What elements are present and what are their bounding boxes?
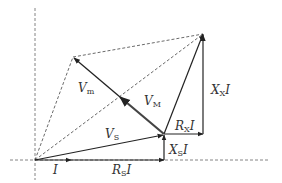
dashed-O-to-Vm [35,57,73,160]
label-rs-i: RSI [112,164,131,178]
phasor-diagram-svg [0,0,282,183]
label-i: I [53,164,58,176]
label-xx-i: XXI [211,84,230,98]
label-xs-i: XSI [169,144,188,158]
label-vm: Vm [78,82,94,96]
vs-arrow [35,135,163,160]
label-rx-i: RXI [175,120,195,134]
dashed-Vm-to-B [73,34,203,57]
label-vM: VM [144,95,161,109]
label-vs: VS [105,128,119,142]
phasor-diagram: I RSI XSI RXI XXI VS VM Vm [0,0,282,183]
